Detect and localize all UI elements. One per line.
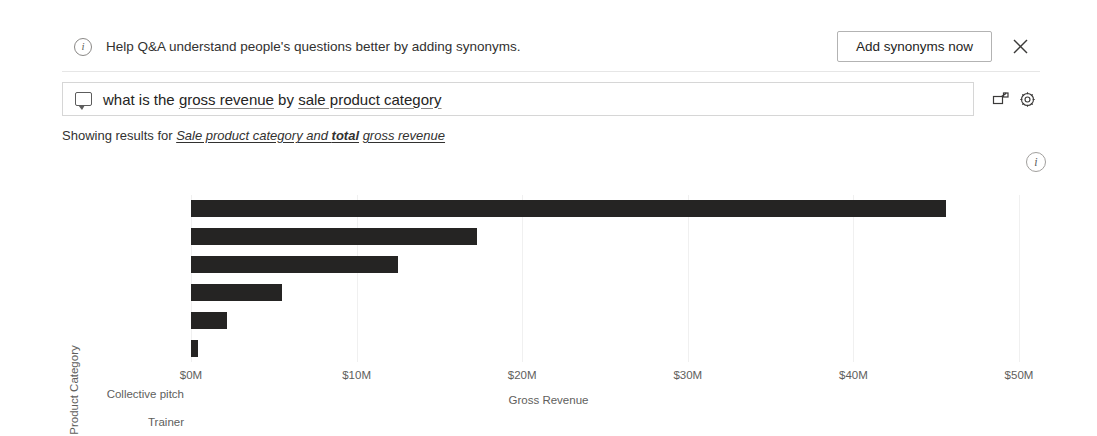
bar-row[interactable]	[191, 223, 1019, 251]
qna-query-row: what is the gross revenue by sale produc…	[62, 82, 1040, 116]
x-axis-tick-label: $40M	[839, 369, 868, 381]
query-term-dimension: sale product category	[298, 91, 441, 108]
bar[interactable]	[191, 340, 198, 357]
gear-icon[interactable]	[1014, 86, 1040, 112]
gross-revenue-bar-chart[interactable]: Product Category Collective pitchTrainer…	[0, 185, 1097, 400]
qna-search-input[interactable]: what is the gross revenue by sale produc…	[62, 82, 974, 116]
info-circle-icon: i	[74, 38, 92, 56]
showing-results-field-measure[interactable]: gross revenue	[363, 128, 445, 143]
gridline	[1019, 195, 1020, 362]
x-axis-title: Gross Revenue	[0, 394, 1097, 406]
query-prefix: what is the	[103, 91, 179, 108]
x-axis-tick-label: $50M	[1005, 369, 1034, 381]
field-dimension-text: Sale product category and	[176, 128, 331, 143]
x-axis-tick-label: $10M	[342, 369, 371, 381]
field-aggregation-text: total	[332, 128, 359, 143]
query-middle: by	[274, 91, 298, 108]
bar-row[interactable]	[191, 334, 1019, 362]
visual-info-icon[interactable]: i	[1026, 152, 1046, 172]
banner-message: Help Q&A understand people's questions b…	[106, 39, 521, 54]
turn-into-visual-icon[interactable]	[988, 86, 1014, 112]
query-term-measure: gross revenue	[179, 91, 274, 108]
add-synonyms-button[interactable]: Add synonyms now	[837, 31, 992, 62]
showing-results-field-dimension[interactable]: Sale product category and total	[176, 128, 359, 143]
plot-area	[191, 195, 1019, 362]
showing-results-note: Showing results for Sale product categor…	[62, 128, 445, 143]
close-icon[interactable]	[1002, 29, 1038, 65]
qna-toolbar	[988, 86, 1040, 112]
bar-row[interactable]	[191, 251, 1019, 279]
x-axis-tick-label: $30M	[673, 369, 702, 381]
bar[interactable]	[191, 312, 227, 329]
bar[interactable]	[191, 284, 282, 301]
bar[interactable]	[191, 256, 398, 273]
bar[interactable]	[191, 200, 946, 217]
bar[interactable]	[191, 228, 477, 245]
qna-query-text: what is the gross revenue by sale produc…	[103, 91, 442, 108]
bar-row[interactable]	[191, 279, 1019, 307]
bar-row[interactable]	[191, 195, 1019, 223]
bar-row[interactable]	[191, 306, 1019, 334]
y-axis-tick-label: Trainer	[76, 416, 184, 428]
x-axis-tick-label: $20M	[508, 369, 537, 381]
x-axis-tick-label: $0M	[180, 369, 202, 381]
showing-results-prefix: Showing results for	[62, 128, 176, 143]
chat-bubble-icon	[75, 92, 92, 106]
synonyms-banner: i Help Q&A understand people's questions…	[62, 22, 1040, 72]
